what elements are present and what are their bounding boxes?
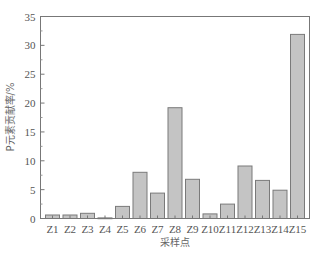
x-tick-label: Z3 (81, 223, 94, 235)
y-tick-label: 25 (25, 68, 37, 80)
bar-z9 (186, 179, 200, 218)
bars-group (46, 34, 305, 218)
bar-z12 (238, 166, 252, 219)
x-tick-label: Z11 (219, 223, 236, 235)
x-tick-label: Z8 (169, 223, 182, 235)
x-tick-label: Z9 (186, 223, 199, 235)
x-axis-title: 采样点 (160, 236, 190, 248)
bar-chart: 05101520253035 Z1Z2Z3Z4Z5Z6Z7Z8Z9Z10Z11Z… (0, 0, 321, 256)
bar-z14 (273, 190, 287, 218)
y-axis-ticks: 05101520253035 (25, 11, 45, 225)
bar-z13 (256, 180, 270, 218)
bar-z8 (168, 108, 182, 219)
y-tick-label: 5 (30, 184, 36, 196)
x-tick-label: Z6 (134, 223, 147, 235)
y-tick-label: 30 (25, 39, 37, 51)
y-axis-title: P元素贡献率/% (4, 83, 16, 152)
y-tick-label: 35 (25, 11, 37, 23)
y-tick-label: 10 (25, 155, 37, 167)
x-tick-label: Z2 (64, 223, 76, 235)
bar-z6 (133, 172, 147, 218)
x-tick-label: Z5 (116, 223, 129, 235)
y-tick-label: 20 (25, 97, 37, 109)
y-tick-label: 15 (25, 126, 37, 138)
y-tick-label: 0 (30, 213, 36, 225)
bar-z7 (151, 193, 165, 218)
x-tick-label: Z15 (289, 223, 307, 235)
x-tick-label: Z4 (99, 223, 112, 235)
x-tick-label: Z1 (46, 223, 58, 235)
bar-z15 (291, 34, 305, 218)
x-tick-label: Z7 (151, 223, 164, 235)
x-tick-label: Z14 (271, 223, 289, 235)
x-tick-label: Z10 (201, 223, 219, 235)
x-tick-label: Z12 (236, 223, 254, 235)
x-tick-label: Z13 (254, 223, 272, 235)
